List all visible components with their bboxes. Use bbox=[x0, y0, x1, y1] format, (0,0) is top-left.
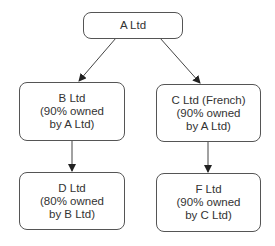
node-d-line-2: (80% owned bbox=[40, 195, 104, 208]
node-f-line-3: by C Ltd) bbox=[185, 209, 232, 222]
node-f-line-1: F Ltd bbox=[195, 183, 221, 196]
node-c-line-1: C Ltd (French) bbox=[171, 94, 245, 107]
node-d-line-1: D Ltd bbox=[58, 182, 86, 195]
node-c-line-2: (90% owned bbox=[177, 107, 241, 120]
edge-a-to-b bbox=[79, 38, 116, 81]
node-d-ltd: D Ltd (80% owned by B Ltd) bbox=[19, 172, 125, 230]
edge-a-to-c bbox=[160, 38, 200, 83]
node-b-ltd: B Ltd (90% owned by A Ltd) bbox=[19, 82, 125, 141]
node-f-ltd: F Ltd (90% owned by C Ltd) bbox=[156, 173, 261, 232]
node-c-ltd: C Ltd (French) (90% owned by A Ltd) bbox=[156, 84, 261, 142]
node-d-line-3: by B Ltd) bbox=[49, 208, 95, 221]
node-a-line-1: A Ltd bbox=[120, 19, 146, 32]
node-a-ltd: A Ltd bbox=[83, 12, 183, 39]
node-b-line-2: (90% owned bbox=[40, 105, 104, 118]
node-b-line-3: by A Ltd) bbox=[50, 118, 95, 131]
node-b-line-1: B Ltd bbox=[59, 92, 86, 105]
node-c-line-3: by A Ltd) bbox=[186, 120, 231, 133]
node-f-line-2: (90% owned bbox=[177, 196, 241, 209]
